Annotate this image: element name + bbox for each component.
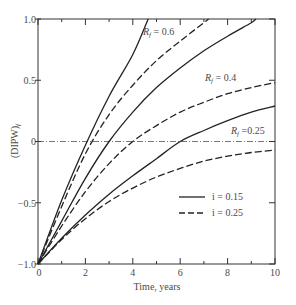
x-tick-labels: 0 2 4 6 8 10 (37, 267, 281, 278)
legend-solid-label: i = 0.15 (212, 191, 243, 202)
x-tick-label: 4 (130, 267, 135, 278)
y-tick-labels: 1.0 0.5 0 −0.5 −1.0 (18, 14, 36, 270)
x-tick-label: 10 (270, 267, 280, 278)
x-tick-label: 8 (225, 267, 230, 278)
curve-label-rf-0.25: Rf =0.25 (230, 125, 265, 138)
legend-dashed-label: i = 0.25 (212, 207, 243, 218)
curve-rf-0.4-i-0.15 (38, 19, 256, 264)
y-tick-label: −0.5 (18, 198, 36, 209)
x-axis-label: Time, years (134, 281, 181, 292)
chart: 0 2 4 6 8 10 1.0 0.5 0 −0.5 −1.0 Time, y… (0, 0, 296, 305)
legend: i = 0.15 i = 0.25 (179, 191, 243, 218)
y-axis-label: (DIPW)f (9, 123, 22, 158)
y-tick-label: 0.5 (24, 75, 37, 86)
y-axis-label-main: (DIPW) (9, 126, 21, 158)
y-tick-label: 0 (31, 136, 36, 147)
y-tick-label: −1.0 (18, 259, 36, 270)
x-tick-label: 0 (37, 267, 42, 278)
curve-label-rf-0.6: Rf = 0.6 (142, 26, 174, 39)
x-tick-label: 2 (83, 267, 88, 278)
x-tick-label: 6 (178, 267, 183, 278)
svg-text:(DIPW)f: (DIPW)f (9, 123, 22, 158)
curve-label-rf-0.4: Rf = 0.4 (204, 72, 236, 85)
y-axis-label-sub: f (14, 123, 22, 126)
y-tick-label: 1.0 (24, 14, 37, 25)
